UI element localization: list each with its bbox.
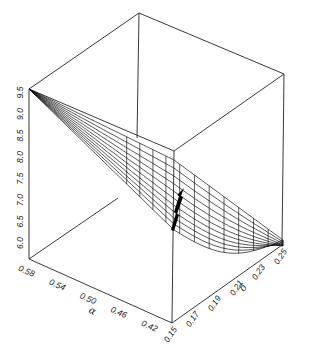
delta-axis-ticks: 0.150.170.190.210.230.25 — [161, 247, 289, 345]
surface-plot: 6.06.57.07.58.08.59.09.5 0.580.540.500.4… — [0, 0, 312, 348]
z-tick-label: 8.0 — [15, 151, 25, 163]
delta-tick-label: 0.25 — [271, 247, 289, 267]
plot-box — [29, 13, 284, 323]
alpha-tick-label: 0.42 — [140, 318, 159, 334]
z-tick-label: 7.5 — [15, 172, 25, 184]
delta-tick-label: 0.17 — [183, 309, 201, 329]
z-tick-label: 9.0 — [15, 108, 25, 120]
z-tick-label: 9.5 — [15, 86, 25, 98]
delta-tick-label: 0.15 — [161, 325, 179, 345]
alpha-tick-label: 0.54 — [48, 277, 67, 293]
z-tick-label: 6.5 — [15, 215, 25, 227]
alpha-axis-ticks: 0.580.540.500.460.42 — [17, 263, 159, 334]
alpha-tick-label: 0.50 — [79, 290, 98, 306]
delta-tick-label: 0.19 — [205, 293, 223, 313]
delta-tick-label: 0.23 — [249, 262, 267, 282]
alpha-tick-label: 0.46 — [109, 304, 128, 320]
alpha-axis-label: α — [87, 304, 98, 317]
surface-mesh — [29, 89, 283, 253]
z-tick-label: 7.0 — [15, 194, 25, 206]
z-tick-label: 6.0 — [15, 237, 25, 249]
alpha-tick-label: 0.58 — [17, 263, 36, 279]
z-tick-label: 8.5 — [15, 129, 25, 141]
z-axis-ticks: 6.06.57.07.58.08.59.09.5 — [15, 86, 25, 249]
